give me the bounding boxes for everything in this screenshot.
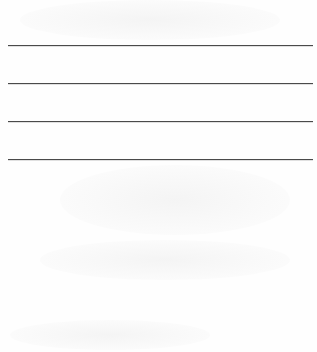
- bleed-through-noise: [40, 240, 290, 280]
- bleed-through-noise: [60, 165, 290, 235]
- bleed-through-noise: [20, 0, 280, 40]
- blank-line-4: [8, 159, 313, 160]
- blank-line-2: [8, 83, 313, 84]
- bleed-through-noise: [10, 320, 210, 350]
- blank-line-3: [8, 121, 313, 122]
- document-page: [0, 0, 317, 352]
- blank-line-1: [8, 45, 313, 46]
